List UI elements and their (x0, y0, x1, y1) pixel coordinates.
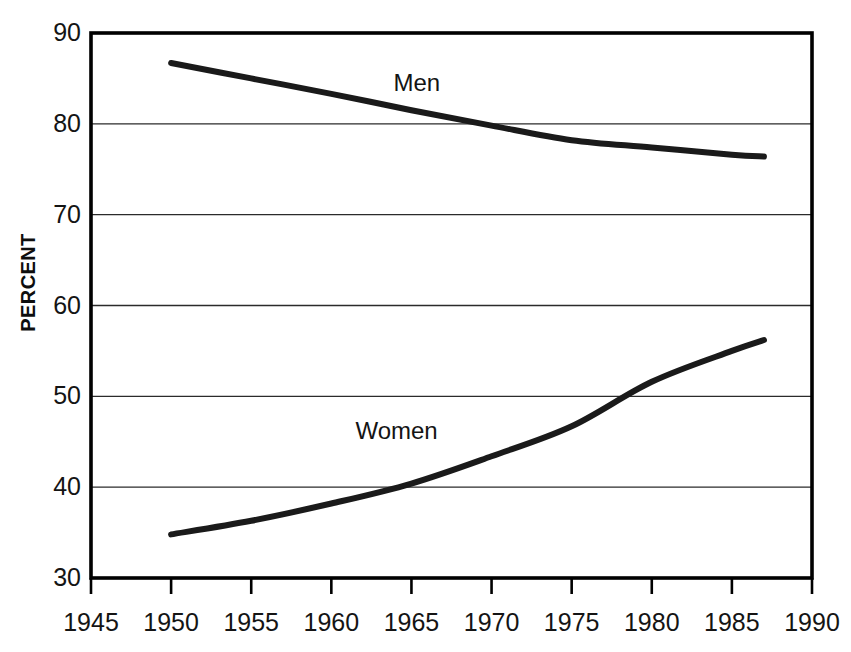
axis-ticks (91, 578, 812, 594)
series-lines (171, 63, 764, 534)
line-chart: PERCENT 90807060504030 19451950195519601… (0, 0, 851, 652)
series-line-men (171, 63, 764, 157)
gridlines (91, 124, 812, 487)
series-line-women (171, 340, 764, 534)
plot-area (0, 0, 851, 652)
